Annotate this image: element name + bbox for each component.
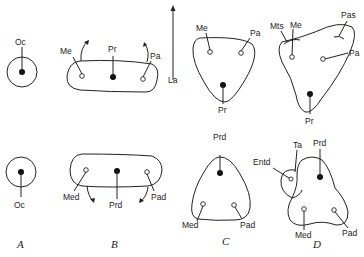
tooth-outline (193, 38, 255, 102)
leader-line (339, 21, 347, 36)
axis-label-la: La (168, 75, 178, 85)
label-pa: Pa (150, 51, 161, 61)
leader-line (273, 168, 289, 178)
label-me: Me (196, 23, 208, 33)
label-prd: Prd (213, 132, 227, 142)
leader-line (74, 172, 86, 191)
label-pr: Pr (108, 44, 117, 54)
cusp-pa (141, 77, 146, 82)
label-ta: Ta (293, 140, 302, 150)
label-entd: Entd (253, 157, 271, 167)
label-pas: Pas (341, 10, 356, 20)
label-med: Med (63, 192, 80, 202)
label-pr: Pr (218, 105, 227, 115)
label-mts: Mts (270, 21, 284, 31)
panel-c-lower: Prd Med Pad (182, 132, 255, 230)
caption-b: B (111, 238, 118, 250)
pas-crest (334, 36, 344, 39)
arrow-up-icon (171, 5, 176, 11)
label-prd: Prd (109, 200, 123, 210)
cusp-entd (289, 177, 293, 181)
label-pad: Pad (151, 192, 166, 202)
leader-line (325, 53, 348, 59)
cusp-pad (332, 208, 337, 213)
cusp-me (290, 55, 295, 60)
leader-line (292, 29, 293, 55)
cusp-diagram: La Oc Me Pr Pa Me Pa Pr (0, 0, 364, 257)
arrow-curve-right (145, 44, 148, 62)
cusp-med (302, 207, 307, 212)
label-me: Me (60, 46, 72, 56)
leader-line (235, 207, 242, 219)
leader-line (281, 31, 287, 42)
label-med: Med (182, 220, 199, 230)
label-prd: Prd (313, 138, 327, 148)
panel-a-lower: Oc (6, 157, 36, 210)
cusp-med (84, 168, 89, 173)
label-med: Med (295, 230, 312, 240)
cusp-me (80, 74, 85, 79)
label-pad: Pad (240, 220, 255, 230)
panel-b-lower: Med Prd Pad (63, 154, 166, 210)
cusp-pad (232, 203, 237, 208)
leader-line (295, 150, 297, 172)
label-me: Me (290, 20, 302, 30)
tooth-outline (192, 157, 251, 220)
label-pad: Pad (342, 228, 357, 238)
label-pa: Pa (349, 48, 360, 58)
talonid-outline (281, 170, 302, 198)
panel-c-upper: Me Pa Pr (193, 23, 261, 115)
cusp-pad (145, 170, 150, 175)
cusp-med (201, 202, 206, 207)
orientation-axis: La (168, 5, 178, 85)
label-pa: Pa (250, 28, 261, 38)
arrow-curve-right (141, 187, 148, 201)
leader-line (206, 33, 210, 50)
panel-a-upper: Oc (7, 37, 37, 87)
panel-d-upper: Mts Me Pas Pa Pr (270, 10, 360, 126)
cusp-pa (321, 57, 326, 62)
label-oc: Oc (15, 37, 27, 47)
label-oc: Oc (14, 200, 26, 210)
panel-d-lower: Prd Ta Entd Med Pad (253, 138, 357, 240)
cusp-me (208, 50, 213, 55)
caption-a: A (16, 238, 24, 250)
caption-d: D (312, 238, 321, 250)
tooth-outline (279, 24, 355, 112)
label-pr: Pr (305, 116, 314, 126)
tooth-outline (288, 157, 348, 225)
cusp-pa (239, 51, 244, 56)
caption-c: C (222, 235, 230, 247)
panel-b-upper: Me Pr Pa (60, 40, 161, 92)
